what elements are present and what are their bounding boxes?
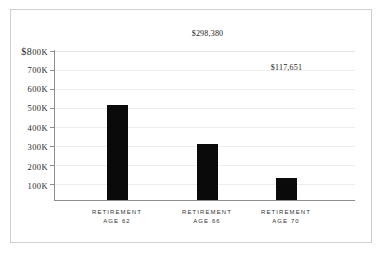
y-tick-mark: [50, 184, 54, 185]
y-tick-mark: [50, 146, 54, 147]
y-tick-mark: [50, 70, 54, 71]
gridline: [55, 89, 355, 90]
y-tick-mark: [50, 127, 54, 128]
y-tick-mark: [50, 51, 54, 52]
bar-value-label: $117,651: [271, 63, 302, 72]
y-tick-mark: [50, 165, 54, 166]
y-tick-label: 700K: [28, 65, 49, 75]
y-tick-label-suffix: 600K: [28, 84, 49, 94]
x-category-label-line2: AGE 70: [261, 217, 311, 226]
plot-area: $510,757 $298,380 $117,651: [55, 51, 355, 200]
y-axis-tick-labels: $800K 700K 600K 500K 400K 300K 200K 100K: [0, 0, 48, 257]
x-category-label-age-70: RETIREMENT AGE 70: [261, 208, 311, 226]
y-tick-label-suffix: 00K: [32, 47, 48, 57]
y-tick-label: 100K: [28, 181, 49, 191]
bar-retirement-age-66[interactable]: [197, 144, 218, 200]
y-tick-label-suffix: 400K: [28, 123, 49, 133]
chart-figure: $800K 700K 600K 500K 400K 300K 200K 100K…: [0, 0, 388, 257]
y-tick-label: 300K: [28, 142, 49, 152]
gridline: [55, 51, 355, 52]
y-tick-label-suffix: 700K: [28, 65, 49, 75]
y-tick-label-prefix: $8: [21, 46, 32, 57]
y-tick-label-suffix: 200K: [28, 162, 49, 172]
y-tick-mark: [50, 108, 54, 109]
y-tick-label: 400K: [28, 123, 49, 133]
bar-retirement-age-62[interactable]: [107, 105, 128, 200]
x-category-label-age-66: RETIREMENT AGE 66: [182, 208, 232, 226]
x-category-label-line1: RETIREMENT: [182, 208, 232, 217]
y-tick-label: 600K: [28, 84, 49, 94]
bar-retirement-age-70[interactable]: [276, 178, 297, 200]
x-category-label-age-62: RETIREMENT AGE 62: [92, 208, 142, 226]
x-category-label-line1: RETIREMENT: [92, 208, 142, 217]
y-tick-label: 200K: [28, 162, 49, 172]
y-tick-label-suffix: 300K: [28, 142, 49, 152]
y-tick-mark: [50, 89, 54, 90]
x-category-label-line2: AGE 66: [182, 217, 232, 226]
x-category-label-line1: RETIREMENT: [261, 208, 311, 217]
y-tick-label: $800K: [21, 46, 48, 57]
y-tick-label-suffix: 500K: [28, 103, 49, 113]
y-tick-label: 500K: [28, 103, 49, 113]
y-tick-label-suffix: 100K: [28, 181, 49, 191]
gridline: [55, 70, 355, 71]
x-category-label-line2: AGE 62: [92, 217, 142, 226]
gridline: [55, 108, 355, 109]
bar-value-label: $298,380: [192, 29, 224, 38]
x-axis-baseline: [54, 200, 355, 201]
gridline: [55, 127, 355, 128]
